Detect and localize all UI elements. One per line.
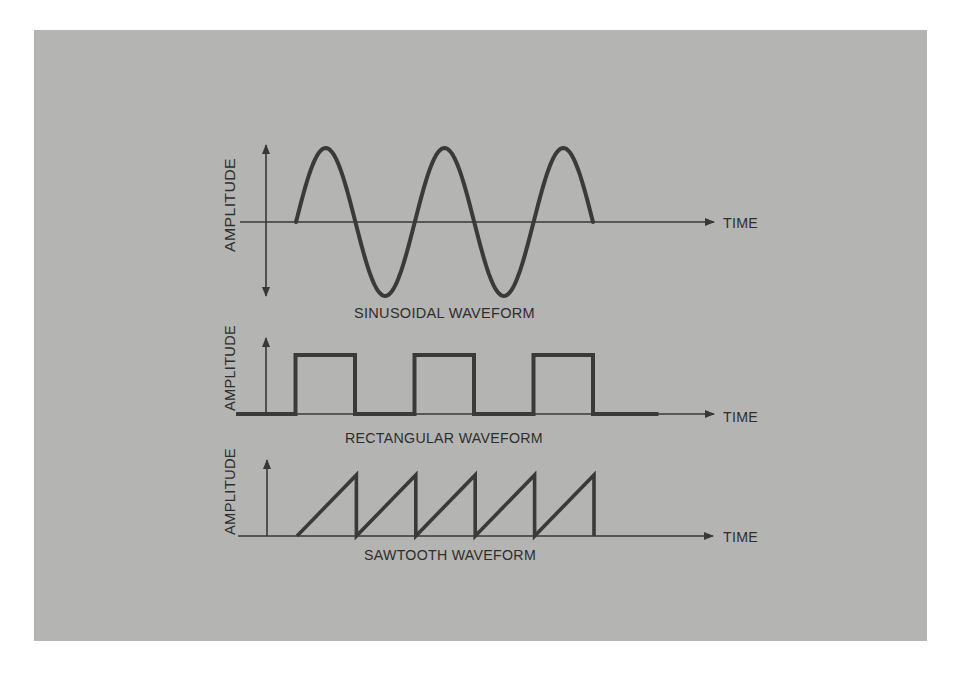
sine-y-axis-label: AMPLITUDE xyxy=(221,158,238,252)
waveform-figure: AMPLITUDE TIME SINUSOIDAL WAVEFORM AMPLI… xyxy=(0,0,959,676)
rect-y-axis-label: AMPLITUDE xyxy=(221,325,238,411)
sawtooth-curve xyxy=(297,475,594,536)
saw-title: SAWTOOTH WAVEFORM xyxy=(364,546,536,563)
sawtooth-panel: AMPLITUDE TIME SAWTOOTH WAVEFORM xyxy=(221,448,758,563)
rectangular-panel: AMPLITUDE TIME RECTANGULAR WAVEFORM xyxy=(221,325,758,446)
rectangular-pulse-train xyxy=(236,355,659,414)
sine-title: SINUSOIDAL WAVEFORM xyxy=(354,304,535,321)
sinusoidal-panel: AMPLITUDE TIME SINUSOIDAL WAVEFORM xyxy=(221,145,758,321)
saw-y-axis-label: AMPLITUDE xyxy=(221,448,238,535)
rect-x-axis-label: TIME xyxy=(723,408,758,425)
saw-x-axis-label: TIME xyxy=(723,528,758,545)
rect-title: RECTANGULAR WAVEFORM xyxy=(345,429,543,446)
sine-x-axis-label: TIME xyxy=(723,214,758,231)
